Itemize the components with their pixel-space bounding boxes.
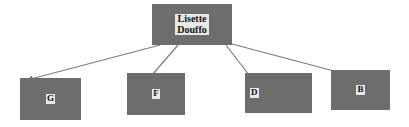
node-child-g-label: G [46, 94, 55, 103]
node-child-f[interactable]: F [127, 73, 185, 115]
edge-root-to-f [152, 45, 178, 75]
node-child-d-label: D [250, 88, 259, 97]
node-child-d[interactable]: D [245, 73, 312, 113]
node-child-b[interactable]: B [331, 70, 390, 110]
node-child-f-label: F [152, 89, 160, 98]
node-root-label: Lisette Douffo [175, 14, 208, 34]
node-child-b-label: B [356, 85, 364, 94]
node-root[interactable]: Lisette Douffo [152, 4, 232, 45]
edge-root-to-b [232, 44, 334, 71]
node-child-g[interactable]: G [20, 78, 81, 120]
diagram-canvas: Lisette Douffo G F D B [0, 0, 409, 127]
edge-root-to-d [226, 45, 249, 75]
